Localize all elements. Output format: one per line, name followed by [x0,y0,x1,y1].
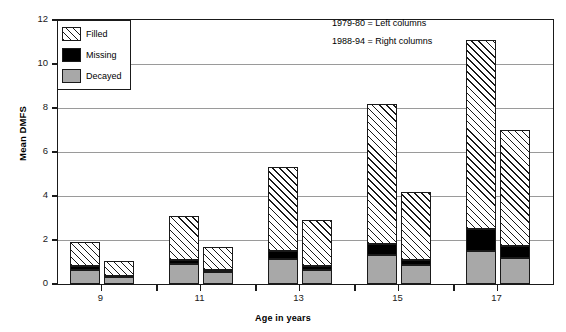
legend-item: Filled [62,24,127,44]
x-axis-minor-tick [255,284,256,291]
x-axis-tick-label: 17 [477,292,517,303]
x-axis-tick [101,284,102,291]
bar-column [268,167,298,284]
y-axis-tick-label: 4 [14,189,48,200]
bar-column [302,220,332,284]
annotation-text: 1988-94 = Right columns [332,36,432,46]
bar-segment-decayed [268,259,298,284]
chart-figure: Mean DMFS 024681012 911131517 Age in yea… [0,0,566,332]
x-axis-tick-label: 15 [378,292,418,303]
bar-segment-decayed [70,270,100,284]
bar-segment-missing [169,260,199,264]
bar-column [500,130,530,284]
bar-segment-filled [500,130,530,246]
y-axis-tick-label: 10 [14,57,48,68]
bar-column [466,40,496,284]
bar-column [203,247,233,284]
x-axis-minor-tick [453,284,454,291]
chart-annotations: 1979-80 = Left columns1988-94 = Right co… [332,18,432,54]
x-axis-tick [200,284,201,291]
bar-segment-missing [268,251,298,259]
y-axis-tick [52,107,58,109]
bar-segment-decayed [169,264,199,284]
bar-segment-filled [466,40,496,229]
bar-segment-filled [302,220,332,266]
x-axis-tick [299,284,300,291]
y-axis-tick [52,151,58,153]
y-axis-tick-label: 12 [14,13,48,24]
x-axis-tick [497,284,498,291]
bar-segment-filled [70,242,100,266]
x-axis-tick-label: 11 [180,292,220,303]
bar-segment-missing [401,260,431,266]
bar-segment-filled [401,192,431,260]
bar-column [367,104,397,284]
legend-item: Missing [62,45,127,65]
bar-column [401,192,431,284]
bar-segment-filled [169,216,199,260]
bar-segment-decayed [500,258,530,284]
x-axis-tick [398,284,399,291]
bar-segment-missing [302,266,332,269]
annotation-text: 1979-80 = Left columns [332,18,432,28]
bar-column [104,261,134,284]
bar-column [70,242,100,284]
legend-swatch-filled [62,27,81,41]
y-axis-tick-label: 0 [14,277,48,288]
bar-segment-filled [367,104,397,245]
y-axis-tick-label: 6 [14,145,48,156]
x-axis-title: Age in years [0,313,566,323]
bar-segment-decayed [203,272,233,284]
x-axis-minor-tick [156,284,157,291]
x-axis-tick-label: 13 [279,292,319,303]
bar-segment-missing [466,229,496,251]
bar-segment-missing [500,246,530,258]
legend-item: Decayed [62,66,127,86]
bar-segment-decayed [466,251,496,284]
chart-legend: FilledMissingDecayed [57,20,131,90]
y-axis-tick [52,239,58,241]
bar-segment-missing [203,270,233,272]
y-axis-tick [52,195,58,197]
x-axis-minor-tick [354,284,355,291]
bar-segment-decayed [367,255,397,284]
bar-segment-missing [70,266,100,269]
y-axis-tick-label: 8 [14,101,48,112]
bar-segment-filled [203,247,233,270]
bar-column [169,216,199,284]
plot-area [57,19,554,285]
bar-segment-missing [367,244,397,255]
legend-label: Decayed [86,71,122,81]
legend-label: Missing [86,50,117,60]
bar-segment-filled [104,261,134,276]
bar-segment-decayed [104,277,134,284]
legend-swatch-decayed [62,69,81,83]
legend-swatch-missing [62,48,81,62]
y-axis-tick-label: 2 [14,233,48,244]
bar-segment-decayed [401,265,431,284]
bar-segment-decayed [302,270,332,284]
bar-segment-filled [268,167,298,251]
x-axis-tick-label: 9 [81,292,121,303]
y-axis-tick [52,283,58,285]
legend-label: Filled [86,29,108,39]
